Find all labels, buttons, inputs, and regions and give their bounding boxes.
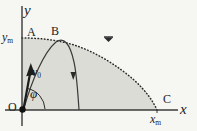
y-max-label: ym [2,31,13,44]
x-max-subscript: m [155,118,161,127]
x-max-label: xm [150,113,161,126]
point-a-label: A [27,26,36,38]
projectile-envelope-figure: y x ym xm A B C O v0 φ [0,0,197,131]
velocity-subscript: 0 [37,71,41,80]
point-marker-icon [19,106,25,112]
y-max-subscript: m [7,36,13,45]
x-axis-label: x [180,102,187,117]
angle-label: φ [30,87,37,100]
velocity-label: v0 [32,66,41,79]
figure-canvas [0,0,197,131]
point-b-label: B [51,25,59,37]
y-axis-label: y [24,3,31,18]
arrowhead-icon-stem [104,36,113,37]
origin-label: O [8,101,17,113]
point-c-label: C [163,93,171,105]
arrowhead-icon [104,38,113,43]
